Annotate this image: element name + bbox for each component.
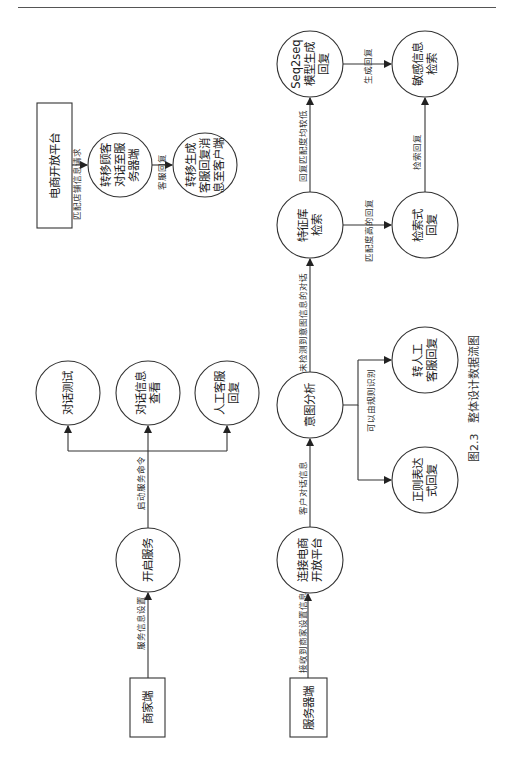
manual-reply-label: 人工客服 回复 <box>197 363 257 423</box>
edge-label-merchant-start: 服务信息设置 <box>134 596 146 650</box>
figure-caption: 图2.3 整体设计数据流图 <box>465 335 481 462</box>
line: 回复 <box>227 382 241 404</box>
sensitive-check-label: 敏感信息 检索 <box>395 34 455 94</box>
regex-reply-label: 正则表达 式回复 <box>395 450 455 510</box>
line: 正则表达 <box>411 458 425 502</box>
dialog-view-label: 对话信息 查看 <box>118 363 178 423</box>
line: Seq2seq <box>289 39 303 88</box>
line: 转人工 <box>411 344 425 377</box>
edge-label-retrieval-sensitive: 检索回复 <box>410 134 422 170</box>
start-service-label: 开启服务 <box>118 530 178 590</box>
line: 检索 <box>425 53 439 75</box>
line: 检索式 <box>411 209 425 242</box>
line: 回复 <box>317 53 331 75</box>
line: 检索 <box>310 214 324 236</box>
caption-title: 整体设计数据流图 <box>468 335 481 423</box>
label-text: 商家端 <box>141 691 155 724</box>
edge-label-feature-seq2seq: 回复匹配度均较低 <box>296 110 308 182</box>
line: 务器端 <box>127 149 141 182</box>
edge-label-server-connect: 接收到商家设置信息 <box>296 592 308 673</box>
manual-transfer-label: 转人工 客服回复 <box>395 330 455 390</box>
label-text: 电商开放平台 <box>48 133 62 199</box>
intent-label: 意图分析 <box>280 375 340 435</box>
server-box-label: 服务器端 <box>290 678 327 737</box>
line: 客服回复消 <box>198 138 212 193</box>
line: 对话至服 <box>113 143 127 187</box>
line: 查看 <box>148 382 162 404</box>
edge-label-transfer-reply: 客服回复 <box>155 154 167 190</box>
edge-label-intent-rules: 可以由规则识别 <box>364 369 376 432</box>
transfer-to-server-label: 转移顾客 对话至服 务器端 <box>90 135 150 195</box>
retrieval-reply-label: 检索式 回复 <box>395 195 455 255</box>
line: 对话测试 <box>61 371 75 415</box>
merchant-box-label: 商家端 <box>130 678 165 737</box>
edge-intent-branch <box>343 360 358 405</box>
line: 连接电商 <box>296 538 310 582</box>
line: 对话信息 <box>134 371 148 415</box>
line: 人工客服 <box>213 371 227 415</box>
line: 息至客户端 <box>212 138 226 193</box>
edge-label-intent-feature: 未检测到意图信息的对话 <box>296 273 308 372</box>
edge-label-platform-transfer: 匹配店铺信息请求 <box>70 148 82 220</box>
line: 意图分析 <box>303 383 317 427</box>
dialog-test-label: 对话测试 <box>38 363 98 423</box>
line: 式回复 <box>425 464 439 497</box>
line: 模型生成 <box>303 42 317 86</box>
line: 开放平台 <box>310 538 324 582</box>
line: 敏感信息 <box>411 42 425 86</box>
line: 回复 <box>425 214 439 236</box>
seq2seq-label: Seq2seq 模型生成 回复 <box>280 34 340 94</box>
line: 开启服务 <box>141 538 155 582</box>
line: 转移生成 <box>184 143 198 187</box>
caption-number: 图2.3 <box>468 434 481 463</box>
feature-lib-label: 特征库 检索 <box>280 195 340 255</box>
edge-label-seq2seq-sensitive: 生成回复 <box>361 48 373 84</box>
transfer-reply-label: 转移生成 客服回复消 息至客户端 <box>175 135 235 195</box>
edge-label-connect-intent: 客户对话信息 <box>296 461 308 515</box>
line: 转移顾客 <box>99 143 113 187</box>
line: 特征库 <box>296 209 310 242</box>
line: 客服回复 <box>425 338 439 382</box>
label-text: 服务器端 <box>302 686 316 730</box>
platform-box-label: 电商开放平台 <box>37 103 72 228</box>
edge-label-feature-retrieval: 匹配度高的回复 <box>362 199 374 262</box>
edge-label-start-functions: 启动服务命令 <box>134 456 146 510</box>
connect-platform-label: 连接电商 开放平台 <box>280 530 340 590</box>
